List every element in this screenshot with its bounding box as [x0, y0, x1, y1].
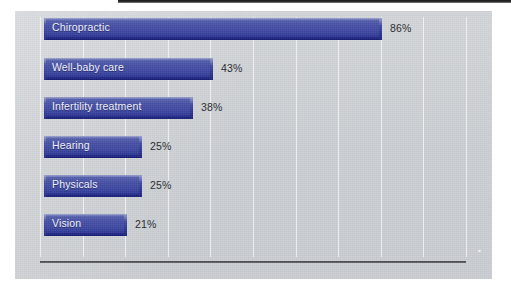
- gridline: [40, 17, 41, 257]
- bar-category-label: Hearing: [52, 139, 90, 151]
- bar-row[interactable]: Well-baby care43%: [44, 58, 486, 90]
- bar-value-label: 25%: [150, 179, 171, 191]
- scanned-page-top-edge: [118, 0, 511, 3]
- bar-row[interactable]: Hearing25%: [44, 136, 486, 168]
- bar[interactable]: Chiropractic: [44, 18, 382, 40]
- bar[interactable]: Vision: [44, 214, 127, 236]
- bar-category-label: Infertility treatment: [52, 100, 142, 112]
- x-axis-line: [40, 261, 466, 263]
- bar-value-label: 25%: [150, 140, 171, 152]
- bar-category-label: Well-baby care: [52, 61, 124, 73]
- bar-category-label: Chiropractic: [52, 21, 110, 33]
- bar[interactable]: Hearing: [44, 136, 142, 158]
- page-edge-left-margin: [0, 0, 118, 2]
- bar-row[interactable]: Vision21%: [44, 214, 486, 246]
- bar-category-label: Vision: [52, 217, 81, 229]
- chart-panel: Chiropractic86%Well-baby care43%Infertil…: [15, 11, 492, 279]
- bar-category-label: Physicals: [52, 178, 98, 190]
- bar-row[interactable]: Physicals25%: [44, 175, 486, 207]
- bar[interactable]: Well-baby care: [44, 58, 213, 80]
- bar[interactable]: Physicals: [44, 175, 142, 197]
- bar-value-label: 86%: [390, 22, 411, 34]
- bar-row[interactable]: Infertility treatment38%: [44, 97, 486, 129]
- plot-area: Chiropractic86%Well-baby care43%Infertil…: [40, 17, 482, 267]
- bar-row[interactable]: Chiropractic86%: [44, 18, 486, 50]
- bar-value-label: 21%: [135, 218, 156, 230]
- bar-value-label: 38%: [201, 101, 222, 113]
- bar-value-label: 43%: [221, 62, 242, 74]
- scan-artifact-speck: [478, 250, 481, 252]
- bar[interactable]: Infertility treatment: [44, 97, 193, 119]
